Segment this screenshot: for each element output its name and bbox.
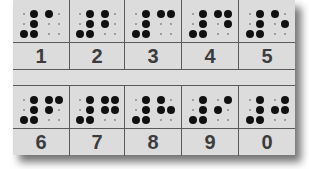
raised-dot-icon xyxy=(29,95,38,104)
raised-dot-icon xyxy=(141,9,150,18)
flat-dot-icon xyxy=(156,115,165,124)
flat-dot-icon xyxy=(245,95,254,104)
raised-dot-icon xyxy=(85,19,94,28)
numeral-cell-6: 6 xyxy=(13,129,70,156)
digit-cell xyxy=(100,9,119,38)
flat-dot-icon xyxy=(110,19,119,28)
raised-dot-icon xyxy=(85,29,94,38)
raised-dot-icon xyxy=(29,29,38,38)
numeral-label: 4 xyxy=(182,43,238,69)
flat-dot-icon xyxy=(213,115,222,124)
raised-dot-icon xyxy=(280,105,289,114)
flat-dot-icon xyxy=(19,95,28,104)
raised-dot-icon xyxy=(75,115,84,124)
raised-dot-icon xyxy=(100,9,109,18)
number-sign-cell xyxy=(19,95,38,124)
raised-dot-icon xyxy=(44,9,53,18)
number-sign-cell xyxy=(188,95,207,124)
raised-dot-icon xyxy=(85,95,94,104)
raised-dot-icon xyxy=(198,105,207,114)
number-sign-cell xyxy=(131,95,150,124)
raised-dot-icon xyxy=(85,9,94,18)
raised-dot-icon xyxy=(54,95,63,104)
raised-dot-icon xyxy=(213,105,222,114)
raised-dot-icon xyxy=(100,95,109,104)
flat-dot-icon xyxy=(223,105,232,114)
braille-cell-6 xyxy=(13,86,70,128)
flat-dot-icon xyxy=(270,29,279,38)
braille-pair xyxy=(19,95,63,124)
flat-dot-icon xyxy=(54,29,63,38)
numeral-label: 5 xyxy=(239,43,295,69)
raised-dot-icon xyxy=(100,19,109,28)
flat-dot-icon xyxy=(188,105,197,114)
raised-dot-icon xyxy=(44,95,53,104)
number-sign-cell xyxy=(131,9,150,38)
digit-cell xyxy=(44,9,63,38)
raised-dot-icon xyxy=(75,29,84,38)
flat-dot-icon xyxy=(188,95,197,104)
braille-cell-9 xyxy=(182,86,239,128)
braille-cell-1 xyxy=(13,0,70,42)
raised-dot-icon xyxy=(270,9,279,18)
number-sign-cell xyxy=(188,9,207,38)
braille-pair xyxy=(75,9,119,38)
flat-dot-icon xyxy=(213,95,222,104)
numeral-cell-4: 4 xyxy=(182,43,239,69)
flat-dot-icon xyxy=(166,29,175,38)
raised-dot-icon xyxy=(198,95,207,104)
raised-dot-icon xyxy=(198,115,207,124)
numeral-label: 3 xyxy=(125,43,181,69)
raised-dot-icon xyxy=(213,9,222,18)
raised-dot-icon xyxy=(198,9,207,18)
numeral-row-bottom: 6 7 8 9 0 xyxy=(13,129,295,156)
flat-dot-icon xyxy=(110,115,119,124)
raised-dot-icon xyxy=(29,9,38,18)
braille-pair xyxy=(245,9,289,38)
flat-dot-icon xyxy=(100,29,109,38)
flat-dot-icon xyxy=(54,19,63,28)
braille-cell-7 xyxy=(70,86,125,128)
numeral-label: 8 xyxy=(125,129,181,156)
flat-dot-icon xyxy=(75,19,84,28)
braille-pair xyxy=(188,95,232,124)
raised-dot-icon xyxy=(156,95,165,104)
flat-dot-icon xyxy=(156,19,165,28)
raised-dot-icon xyxy=(166,9,175,18)
raised-dot-icon xyxy=(156,105,165,114)
digit-cell xyxy=(270,9,289,38)
raised-dot-icon xyxy=(255,105,264,114)
flat-dot-icon xyxy=(280,9,289,18)
numeral-cell-9: 9 xyxy=(182,129,239,156)
flat-dot-icon xyxy=(44,115,53,124)
numeral-cell-7: 7 xyxy=(70,129,125,156)
flat-dot-icon xyxy=(270,95,279,104)
digit-cell xyxy=(270,95,289,124)
flat-dot-icon xyxy=(75,95,84,104)
flat-dot-icon xyxy=(156,29,165,38)
raised-dot-icon xyxy=(166,105,175,114)
raised-dot-icon xyxy=(223,95,232,104)
flat-dot-icon xyxy=(54,9,63,18)
numeral-cell-0: 0 xyxy=(239,129,295,156)
raised-dot-icon xyxy=(255,9,264,18)
raised-dot-icon xyxy=(141,29,150,38)
number-sign-cell xyxy=(19,9,38,38)
flat-dot-icon xyxy=(245,9,254,18)
raised-dot-icon xyxy=(110,105,119,114)
raised-dot-icon xyxy=(44,105,53,114)
numeral-label: 7 xyxy=(70,129,124,156)
braille-row-bottom xyxy=(13,86,295,129)
braille-pair xyxy=(245,95,289,124)
raised-dot-icon xyxy=(255,115,264,124)
flat-dot-icon xyxy=(19,19,28,28)
flat-dot-icon xyxy=(131,105,140,114)
flat-dot-icon xyxy=(245,105,254,114)
flat-dot-icon xyxy=(110,29,119,38)
number-sign-cell xyxy=(75,95,94,124)
numeral-row-top: 1 2 3 4 5 xyxy=(13,43,295,70)
braille-cell-4 xyxy=(182,0,239,42)
flat-dot-icon xyxy=(223,115,232,124)
flat-dot-icon xyxy=(166,95,175,104)
raised-dot-icon xyxy=(131,115,140,124)
